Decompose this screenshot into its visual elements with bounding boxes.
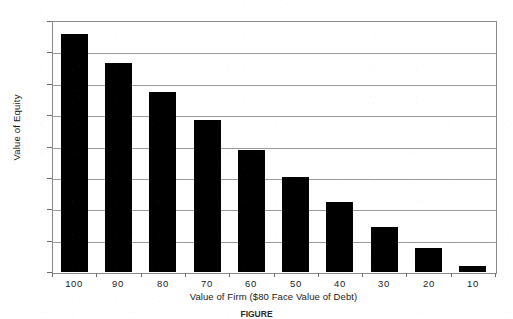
bar — [371, 227, 398, 272]
y-axis-tick-mark — [47, 21, 52, 22]
bar — [105, 63, 132, 272]
figure-bar-chart: Value of Equity 010203040506070801009080… — [0, 0, 513, 319]
x-axis-tick-label: 100 — [52, 278, 96, 289]
x-axis-tick-mark — [52, 273, 53, 277]
x-axis-tick-mark — [185, 273, 186, 277]
x-axis-tick-label: 40 — [318, 278, 362, 289]
x-axis-tick-mark — [96, 273, 97, 277]
x-axis-tick-mark — [451, 273, 452, 277]
x-axis-tick-mark — [495, 273, 496, 277]
x-axis-tick-label: 30 — [362, 278, 406, 289]
x-axis-tick-label: 50 — [274, 278, 318, 289]
bar — [326, 202, 353, 272]
y-axis-tick-mark — [47, 209, 52, 210]
x-axis-tick-label: 60 — [229, 278, 273, 289]
bar — [415, 248, 442, 272]
figure-caption: FIGURE — [0, 309, 513, 319]
bar — [194, 120, 221, 272]
y-axis-title: Value of Equity — [11, 68, 22, 188]
y-axis-tick-mark — [47, 84, 52, 85]
x-axis-tick-label: 20 — [407, 278, 451, 289]
y-axis-tick-mark — [47, 115, 52, 116]
bar — [282, 177, 309, 272]
x-axis-tick-mark — [229, 273, 230, 277]
bar — [459, 266, 486, 272]
x-axis-title: Value of Firm ($80 Face Value of Debt) — [52, 291, 495, 302]
x-axis-tick-label: 70 — [185, 278, 229, 289]
x-axis-tick-label: 90 — [96, 278, 140, 289]
bar — [149, 92, 176, 272]
x-axis-tick-label: 80 — [141, 278, 185, 289]
bar — [61, 34, 88, 272]
figure-number: FIGURE — [240, 309, 272, 319]
y-axis-tick-mark — [47, 52, 52, 53]
x-axis-tick-mark — [318, 273, 319, 277]
gridline — [53, 53, 496, 54]
bar — [238, 150, 265, 272]
x-axis-tick-mark — [141, 273, 142, 277]
x-axis-tick-mark — [362, 273, 363, 277]
x-axis-tick-label: 10 — [451, 278, 495, 289]
x-axis-tick-mark — [406, 273, 407, 277]
x-axis-tick-mark — [274, 273, 275, 277]
y-axis-tick-mark — [47, 147, 52, 148]
y-axis-tick-mark — [47, 241, 52, 242]
y-axis-tick-mark — [47, 178, 52, 179]
